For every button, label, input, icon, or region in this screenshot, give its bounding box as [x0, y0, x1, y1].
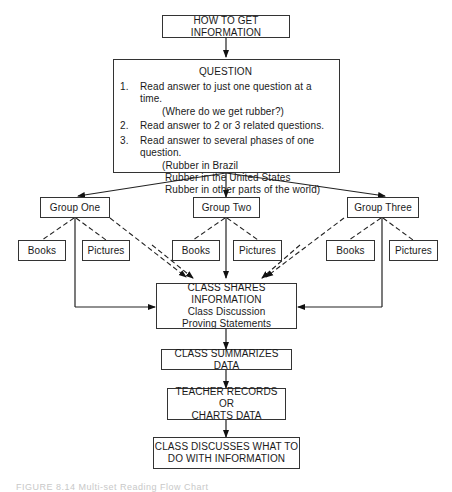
group-one-label: Group One: [50, 202, 100, 214]
question-item-1: 1. Read answer to just one question at a…: [120, 81, 331, 105]
question-item-text: Read answer to just one question at a ti…: [140, 81, 331, 105]
group-one-pictures-box: Pictures: [82, 240, 130, 261]
class-shares-information-box: CLASS SHARES INFORMATION Class Discussio…: [156, 283, 297, 329]
group-two-pictures-box: Pictures: [233, 240, 282, 261]
group-two-books-box: Books: [172, 240, 220, 261]
question-item-3-example-3: Rubber in other parts of the world): [120, 184, 331, 196]
teacher-records-box: TEACHER RECORDS OR CHARTS DATA: [167, 388, 286, 420]
question-title: QUESTION: [120, 66, 331, 78]
question-item-text: Read answer to 2 or 3 related questions.: [140, 120, 331, 132]
teacher-records-line-2: CHARTS DATA: [192, 410, 262, 422]
teacher-records-line-1: TEACHER RECORDS OR: [168, 386, 285, 410]
books-label: Books: [336, 245, 364, 257]
question-item-text: Read answer to several phases of one que…: [140, 135, 331, 159]
group-two-label: Group Two: [202, 202, 252, 214]
class-discusses-box: CLASS DISCUSSES WHAT TO DO WITH INFORMAT…: [153, 437, 300, 469]
class-shares-title: CLASS SHARES INFORMATION: [157, 282, 296, 306]
class-discussion-label: Class Discussion: [188, 306, 266, 318]
question-item-1-example: (Where do we get rubber?): [120, 106, 331, 118]
question-box: QUESTION 1. Read answer to just one ques…: [113, 59, 340, 173]
group-three-label: Group Three: [354, 202, 412, 214]
question-item-2: 2. Read answer to 2 or 3 related questio…: [120, 120, 331, 132]
group-three-pictures-box: Pictures: [389, 240, 438, 261]
class-discusses-line-2: DO WITH INFORMATION: [168, 453, 285, 465]
books-label: Books: [28, 245, 56, 257]
figure-caption: FIGURE 8.14 Multi-set Reading Flow Chart: [16, 482, 209, 492]
question-item-3-example-1: (Rubber in Brazil: [120, 160, 331, 172]
class-discusses-line-1: CLASS DISCUSSES WHAT TO: [155, 441, 298, 453]
group-one-box: Group One: [40, 197, 110, 218]
pictures-label: Pictures: [239, 245, 276, 257]
how-to-get-information-label: HOW TO GET INFORMATION: [163, 15, 289, 39]
class-summarizes-data-box: CLASS SUMMARIZES DATA: [161, 349, 292, 370]
group-one-books-box: Books: [18, 240, 66, 261]
question-item-number: 2.: [120, 120, 140, 132]
question-item-number: 3.: [120, 135, 140, 159]
question-item-3-example-2: Rubber in the United States: [120, 172, 331, 184]
question-item-number: 1.: [120, 81, 140, 105]
class-summarizes-label: CLASS SUMMARIZES DATA: [162, 348, 291, 372]
group-two-box: Group Two: [193, 197, 260, 218]
question-item-3: 3. Read answer to several phases of one …: [120, 135, 331, 159]
group-three-books-box: Books: [326, 240, 375, 261]
proving-statements-label: Proving Statements: [182, 318, 271, 330]
pictures-label: Pictures: [395, 245, 432, 257]
books-label: Books: [182, 245, 210, 257]
pictures-label: Pictures: [88, 245, 125, 257]
how-to-get-information-box: HOW TO GET INFORMATION: [162, 15, 290, 38]
group-three-box: Group Three: [347, 197, 419, 218]
